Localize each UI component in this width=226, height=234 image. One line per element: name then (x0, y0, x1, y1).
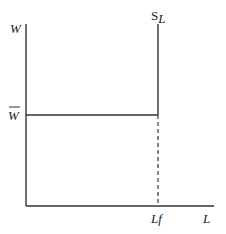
x-axis-label: L (202, 211, 210, 226)
wage-level-label: W (8, 108, 20, 123)
supply-curve-label: SL (151, 8, 165, 26)
labor-supply-diagram: W W SL Lf L (0, 0, 226, 234)
quantity-label: Lf (150, 211, 164, 226)
y-axis-label: W (10, 21, 22, 36)
